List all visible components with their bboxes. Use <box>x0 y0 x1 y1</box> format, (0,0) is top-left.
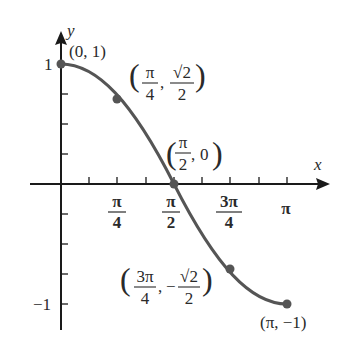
svg-text:,: , <box>191 145 195 164</box>
svg-text:2: 2 <box>185 289 194 308</box>
annotation-0-1: (0, 1) <box>69 42 106 61</box>
svg-text:3π: 3π <box>220 192 239 211</box>
svg-text:π: π <box>179 133 188 152</box>
point-0-1 <box>57 60 66 69</box>
y-axis-arrow-icon <box>55 31 67 45</box>
x-tick-3pi4: 3π 4 <box>216 192 242 232</box>
svg-text:(: ( <box>120 261 131 297</box>
svg-text:π: π <box>146 63 155 82</box>
annotation-pi2: ( π 2 , 0 ) <box>166 133 223 174</box>
x-tick-pi: π <box>281 199 291 218</box>
svg-text:4: 4 <box>113 213 122 232</box>
y-axis-label: y <box>65 21 75 40</box>
point-pi4 <box>113 95 122 104</box>
svg-text:,: , <box>160 73 164 92</box>
annotation-pi-neg1: (π, −1) <box>260 313 307 332</box>
svg-text:2: 2 <box>179 155 188 174</box>
y-tick-1: 1 <box>44 55 53 74</box>
svg-text:2: 2 <box>167 213 176 232</box>
x-tick-pi2: π 2 <box>162 192 180 232</box>
point-pi <box>283 300 292 309</box>
svg-text:,: , <box>158 277 162 296</box>
cosine-chart: y x 1 −1 π 4 π 2 3π 4 π (0, 1) ( π 4 , √… <box>0 0 343 353</box>
y-tick-neg1: −1 <box>33 295 51 314</box>
svg-text:): ) <box>202 261 213 297</box>
svg-text:): ) <box>195 57 206 93</box>
svg-text:(: ( <box>129 57 140 93</box>
svg-text:2: 2 <box>178 85 187 104</box>
point-pi2 <box>170 180 179 189</box>
svg-text:−: − <box>166 277 176 296</box>
svg-text:π: π <box>112 192 122 211</box>
point-3pi4 <box>226 265 235 274</box>
svg-text:√2: √2 <box>173 63 191 82</box>
x-tick-pi4: π 4 <box>108 192 126 232</box>
svg-text:4: 4 <box>141 289 150 308</box>
x-axis-label: x <box>313 155 322 174</box>
svg-text:π: π <box>166 192 176 211</box>
svg-text:4: 4 <box>225 213 234 232</box>
x-axis-arrow-icon <box>316 178 330 190</box>
annotation-3pi4: ( 3π 4 , − √2 2 ) <box>120 261 213 308</box>
svg-text:3π: 3π <box>136 267 154 286</box>
svg-text:√2: √2 <box>180 267 198 286</box>
svg-text:4: 4 <box>146 85 155 104</box>
x-ticks <box>89 177 287 184</box>
svg-text:0: 0 <box>200 145 209 164</box>
annotation-pi4: ( π 4 , √2 2 ) <box>129 57 206 104</box>
svg-text:): ) <box>212 135 223 171</box>
